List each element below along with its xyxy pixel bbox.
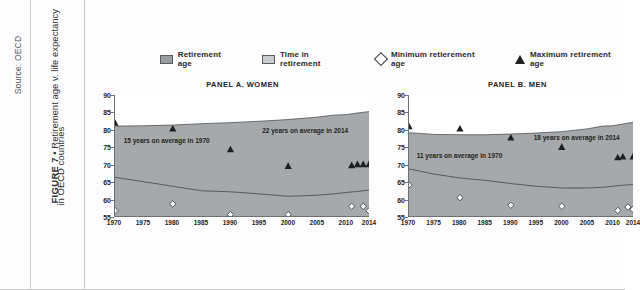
panela-x-tick-label: 1995 <box>252 219 266 226</box>
y-axis-tick <box>110 165 114 166</box>
panel-a-women: PANEL A. WOMEN 5560657075808590 15 years… <box>94 80 369 230</box>
y-axis-tick <box>110 147 114 148</box>
panela-x-tick-label: 1975 <box>136 219 150 226</box>
y-axis-tick <box>404 95 408 96</box>
panel-a-y-axis-labels: 5560657075808590 <box>94 95 111 217</box>
y-axis-tick <box>110 217 114 218</box>
y-axis-tick <box>404 112 408 113</box>
panel-a-x-axis-labels: 1970197519801985199019952000200520102014 <box>114 219 369 231</box>
panel-a-plot-area: 15 years on average in 197022 years on a… <box>114 95 369 217</box>
panelb-x-tick-label: 1990 <box>503 219 517 226</box>
caption-rule-divider <box>84 0 85 289</box>
panelb-x-tick-label: 2010 <box>605 219 619 226</box>
panelb-x-tick-label: 2000 <box>554 219 568 226</box>
figure-title-line-2: in OECD countries <box>55 127 66 206</box>
panelb-x-tick-label: 1980 <box>452 219 466 226</box>
legend-item-retirement-age: Retirement age <box>160 50 236 68</box>
panela-x-tick-label: 1985 <box>194 219 208 226</box>
legend-label-retirement-age: Retirement age <box>178 50 236 68</box>
y-axis-tick <box>110 182 114 183</box>
chart-annotation: 18 years on average in 2014 <box>534 134 620 141</box>
panelb-x-tick-label: 2014 <box>626 219 640 226</box>
panel-b-plot-wrap: 5560657075808590 11 years on average in … <box>388 95 633 230</box>
panel-a-plot-wrap: 5560657075808590 15 years on average in … <box>94 95 369 230</box>
y-axis-tick <box>404 200 408 201</box>
legend-item-time-in-retirement: Time in retirement <box>262 50 350 68</box>
panel-a-svg <box>115 95 369 216</box>
y-axis-tick <box>110 130 114 131</box>
left-rule-divider <box>30 0 31 289</box>
panel-a-title: PANEL A. WOMEN <box>94 80 369 89</box>
y-axis-tick <box>110 112 114 113</box>
panela-x-tick-label: 1990 <box>223 219 237 226</box>
panela-x-tick-label: 2010 <box>339 219 353 226</box>
panelb-x-tick-label: 1995 <box>529 219 543 226</box>
y-axis-tick <box>404 147 408 148</box>
panel-b-plot-area: 11 years on average in 197018 years on a… <box>408 95 633 217</box>
panel-b-y-axis-labels: 5560657075808590 <box>388 95 405 217</box>
square-dark-swatch-icon <box>160 55 173 64</box>
panela-x-tick-label: 2000 <box>281 219 295 226</box>
legend-item-minimum-retirement-age: Minimum retierement age <box>376 50 489 68</box>
panel-b-title: PANEL B. MEN <box>388 80 633 89</box>
y-axis-tick <box>404 217 408 218</box>
panelb-x-tick-label: 1985 <box>477 219 491 226</box>
y-axis-tick <box>404 165 408 166</box>
legend-label-minimum-retirement-age: Minimum retierement age <box>391 50 489 68</box>
y-axis-tick <box>110 95 114 96</box>
y-axis-tick <box>404 130 408 131</box>
maximum-retirement-age-marker <box>456 125 463 132</box>
legend-label-time-in-retirement: Time in retirement <box>280 50 350 68</box>
chart-annotation: 15 years on average in 1970 <box>124 137 210 144</box>
diamond-open-marker-icon <box>374 52 388 66</box>
y-axis-tick <box>110 200 114 201</box>
legend-label-maximum-retirement-age: Maximum retirement age <box>530 50 625 68</box>
panela-x-tick-label: 2014 <box>362 219 376 226</box>
legend-item-maximum-retirement-age: Maximum retirement age <box>515 50 625 68</box>
panela-x-tick-label: 2005 <box>310 219 324 226</box>
panela-x-tick-label: 1980 <box>165 219 179 226</box>
y-axis-tick <box>404 182 408 183</box>
square-light-swatch-icon <box>262 55 275 64</box>
panelb-x-tick-label: 1975 <box>426 219 440 226</box>
triangle-filled-marker-icon <box>515 55 525 64</box>
panelb-x-tick-label: 2005 <box>580 219 594 226</box>
panel-b-men: PANEL B. MEN 5560657075808590 11 years o… <box>388 80 633 230</box>
panel-b-x-axis-labels: 1970197519801985199019952000200520102014 <box>408 219 633 231</box>
figure-caption-second-line: in OECD countries <box>55 46 66 206</box>
panelb-x-tick-label: 1970 <box>401 219 415 226</box>
maximum-retirement-age-marker <box>115 119 119 126</box>
source-credit: Source: OECD <box>13 0 23 135</box>
chart-legend: Retirement age Time in retirement Minimu… <box>160 50 625 68</box>
chart-annotation: 22 years on average in 2014 <box>262 127 348 134</box>
panela-x-tick-label: 1970 <box>107 219 121 226</box>
chart-annotation: 11 years on average in 1970 <box>417 152 503 159</box>
maximum-retirement-age-marker <box>409 123 413 130</box>
